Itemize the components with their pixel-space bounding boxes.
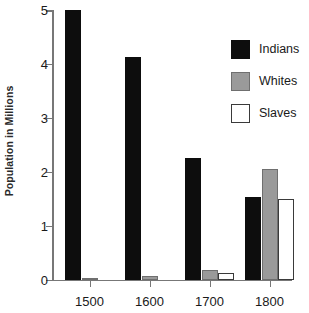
- bar-whites-1500: [82, 278, 98, 280]
- bar-slaves-1700: [218, 273, 234, 279]
- x-tick-mark: [270, 281, 272, 287]
- y-tick-label: 4: [41, 57, 48, 70]
- bar-chart: Population in Millions 012345 1500160017…: [0, 0, 309, 313]
- y-tick-label: 3: [41, 111, 48, 124]
- x-tick-label: 1600: [135, 294, 164, 309]
- legend-item-indians[interactable]: Indians: [231, 36, 309, 62]
- x-axis-line: [52, 280, 292, 282]
- y-tick-label: 2: [41, 165, 48, 178]
- y-tick-label: 0: [41, 273, 48, 286]
- legend-swatch-indians: [231, 40, 250, 59]
- legend-item-label: Whites: [259, 74, 297, 88]
- bar-whites-1700: [202, 270, 218, 280]
- y-axis-title-text: Population in Millions: [3, 85, 15, 196]
- y-axis-line: [52, 10, 54, 281]
- x-tick-label: 1800: [255, 294, 284, 309]
- bar-whites-1800: [262, 169, 278, 279]
- bar-slaves-1800: [278, 199, 294, 279]
- legend-item-slaves[interactable]: Slaves: [231, 100, 309, 126]
- bar-indians-1700: [185, 158, 201, 279]
- legend-swatch-whites: [231, 72, 250, 91]
- y-tick-label: 5: [41, 4, 48, 17]
- x-tick-mark: [210, 281, 212, 287]
- legend-item-label: Slaves: [259, 106, 297, 120]
- bar-indians-1800: [245, 197, 261, 279]
- legend-swatch-slaves: [231, 104, 250, 123]
- x-tick-label: 1700: [195, 294, 224, 309]
- x-tick-mark: [150, 281, 152, 287]
- x-tick-label: 1500: [75, 294, 104, 309]
- legend-item-whites[interactable]: Whites: [231, 68, 309, 94]
- x-tick-mark: [90, 281, 92, 287]
- bar-whites-1600: [142, 276, 158, 279]
- bar-indians-1500: [65, 10, 81, 280]
- y-axis-title: Population in Millions: [0, 0, 18, 281]
- bar-indians-1600: [125, 57, 141, 279]
- legend: IndiansWhitesSlaves: [231, 36, 309, 132]
- legend-item-label: Indians: [259, 42, 299, 56]
- y-tick-label: 1: [41, 219, 48, 232]
